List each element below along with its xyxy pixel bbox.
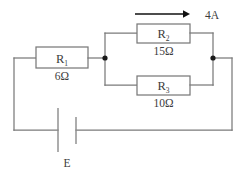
resistor-r3-value: 10Ω xyxy=(153,97,173,109)
junction-node-left xyxy=(102,55,107,60)
circuit-diagram-screenshot: R1 6Ω R2 15Ω R3 10Ω 4A E xyxy=(0,0,249,174)
resistor-r1-value: 6Ω xyxy=(55,70,69,82)
resistor-r2-value: 15Ω xyxy=(153,45,173,57)
circuit-schematic: R1 6Ω R2 15Ω R3 10Ω 4A E xyxy=(0,0,249,174)
battery-label: E xyxy=(63,157,70,169)
current-arrow-head xyxy=(183,10,190,18)
junction-node-right xyxy=(210,55,215,60)
current-arrow-label: 4A xyxy=(205,9,220,21)
